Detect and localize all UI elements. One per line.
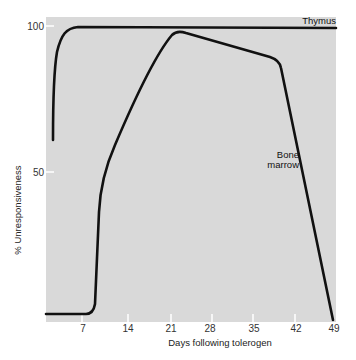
x-tick-label-7: 7 [80, 323, 86, 334]
y-tick-label-50: 50 [33, 167, 45, 178]
x-tick-label-35: 35 [248, 323, 260, 334]
bone-marrow-label-line2: marrow [267, 159, 299, 170]
x-axis-title: Days following tolerogen [168, 337, 272, 348]
x-tick-label-28: 28 [204, 323, 216, 334]
thymus-label: Thymus [302, 15, 336, 26]
y-axis-title: % Unresponsiveness [12, 165, 23, 254]
x-tick-label-42: 42 [290, 323, 302, 334]
y-tick-label-100: 100 [27, 21, 44, 32]
line-chart: 100 50 7 14 21 28 35 42 49 Days followin… [0, 0, 356, 360]
x-tick-label-14: 14 [122, 323, 134, 334]
x-tick-label-49: 49 [328, 323, 340, 334]
x-tick-label-21: 21 [165, 323, 177, 334]
